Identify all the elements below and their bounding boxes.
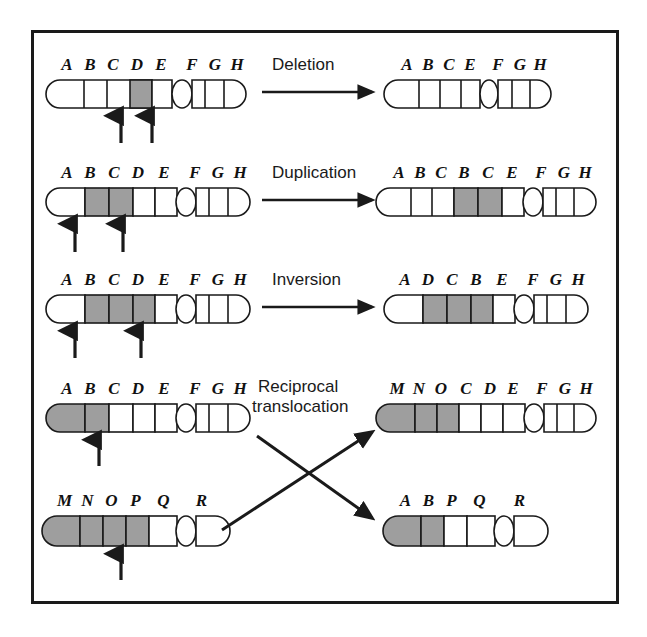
translocation-arrow-up bbox=[222, 432, 372, 530]
gene-label: O bbox=[432, 379, 450, 399]
gene-label: G bbox=[511, 55, 529, 75]
source-chromosome-translocation-mnopqr bbox=[42, 516, 230, 546]
gene-label: C bbox=[440, 55, 458, 75]
gene-label: E bbox=[461, 55, 479, 75]
gene-label: D bbox=[419, 270, 437, 290]
gene-label: H bbox=[231, 379, 249, 399]
gene-label: B bbox=[81, 379, 99, 399]
gene-label: E bbox=[152, 55, 170, 75]
gene-label: H bbox=[531, 55, 549, 75]
gene-label: F bbox=[186, 270, 204, 290]
row-deletion bbox=[46, 80, 551, 143]
gene-label: C bbox=[105, 163, 123, 183]
gene-label: B bbox=[419, 55, 437, 75]
gene-label: G bbox=[555, 163, 573, 183]
gene-label: G bbox=[209, 163, 227, 183]
gene-label: B bbox=[411, 163, 429, 183]
result-chromosome-mnocdefgh bbox=[376, 404, 596, 432]
gene-label: H bbox=[576, 163, 594, 183]
inversion-breakpoint-arrows bbox=[75, 331, 141, 358]
chromosome-diagram bbox=[0, 0, 647, 637]
gene-label: F bbox=[524, 270, 542, 290]
translocation-crossing-arrows bbox=[222, 432, 372, 530]
gene-label: C bbox=[479, 163, 497, 183]
gene-label: A bbox=[58, 379, 76, 399]
gene-label: D bbox=[128, 55, 146, 75]
gene-label: C bbox=[443, 270, 461, 290]
source-chromosome-inversion bbox=[46, 295, 250, 323]
gene-label: D bbox=[129, 163, 147, 183]
source-chromosome-translocation-abcdefgh bbox=[46, 404, 250, 432]
gene-label: C bbox=[457, 379, 475, 399]
source-chromosome-duplication bbox=[46, 188, 250, 216]
gene-label: B bbox=[81, 163, 99, 183]
gene-label: R bbox=[192, 491, 211, 511]
row-inversion bbox=[46, 295, 588, 358]
gene-label: C bbox=[432, 163, 450, 183]
gene-label: E bbox=[504, 379, 522, 399]
gene-label: B bbox=[419, 491, 438, 511]
gene-label: H bbox=[231, 270, 249, 290]
label-duplication: Duplication bbox=[272, 163, 356, 183]
result-chromosome-abpqr bbox=[383, 516, 548, 546]
gene-label: A bbox=[58, 163, 76, 183]
gene-label: F bbox=[183, 55, 201, 75]
gene-label: A bbox=[58, 270, 76, 290]
gene-label: D bbox=[129, 379, 147, 399]
row-translocation-lower bbox=[42, 516, 548, 580]
gene-label: M bbox=[55, 491, 74, 511]
gene-label: H bbox=[231, 163, 249, 183]
gene-label: F bbox=[186, 379, 204, 399]
gene-label: E bbox=[503, 163, 521, 183]
gene-label: E bbox=[493, 270, 511, 290]
result-chromosome-inversion bbox=[384, 295, 588, 323]
gene-label: A bbox=[398, 55, 416, 75]
gene-label: H bbox=[577, 379, 595, 399]
gene-label: B bbox=[81, 55, 99, 75]
gene-label: O bbox=[102, 491, 121, 511]
gene-label: E bbox=[155, 163, 173, 183]
gene-label: H bbox=[228, 55, 246, 75]
gene-label: F bbox=[533, 379, 551, 399]
gene-label: C bbox=[105, 270, 123, 290]
gene-label: G bbox=[206, 55, 224, 75]
deletion-breakpoint-arrows bbox=[121, 116, 152, 143]
gene-label: G bbox=[556, 379, 574, 399]
translocation-arrow-down bbox=[257, 436, 372, 518]
gene-label: R bbox=[510, 491, 529, 511]
row-duplication bbox=[46, 188, 596, 252]
gene-label: A bbox=[58, 55, 76, 75]
result-chromosome-deletion bbox=[384, 80, 551, 108]
gene-label: P bbox=[442, 491, 461, 511]
gene-label: A bbox=[390, 163, 408, 183]
label-reciprocal: Reciprocal bbox=[258, 377, 338, 397]
gene-label: D bbox=[129, 270, 147, 290]
result-chromosome-duplication bbox=[376, 188, 596, 216]
gene-label: N bbox=[78, 491, 97, 511]
gene-label: Q bbox=[154, 491, 173, 511]
gene-label: F bbox=[532, 163, 550, 183]
gene-label: A bbox=[396, 491, 415, 511]
label-translocation: translocation bbox=[252, 397, 348, 417]
gene-label: Q bbox=[470, 491, 489, 511]
gene-label: C bbox=[105, 379, 123, 399]
gene-label: G bbox=[547, 270, 565, 290]
gene-label: E bbox=[155, 379, 173, 399]
gene-label: B bbox=[81, 270, 99, 290]
gene-label: C bbox=[104, 55, 122, 75]
label-inversion: Inversion bbox=[272, 270, 341, 290]
gene-label: N bbox=[410, 379, 428, 399]
gene-label: B bbox=[467, 270, 485, 290]
gene-label: G bbox=[209, 270, 227, 290]
gene-label: E bbox=[155, 270, 173, 290]
label-deletion: Deletion bbox=[272, 55, 334, 75]
gene-label: M bbox=[388, 379, 406, 399]
gene-label: F bbox=[186, 163, 204, 183]
gene-label: G bbox=[209, 379, 227, 399]
gene-label: F bbox=[489, 55, 507, 75]
gene-label: B bbox=[455, 163, 473, 183]
gene-label: D bbox=[481, 379, 499, 399]
gene-label: P bbox=[126, 491, 145, 511]
gene-label: A bbox=[396, 270, 414, 290]
gene-label: H bbox=[569, 270, 587, 290]
